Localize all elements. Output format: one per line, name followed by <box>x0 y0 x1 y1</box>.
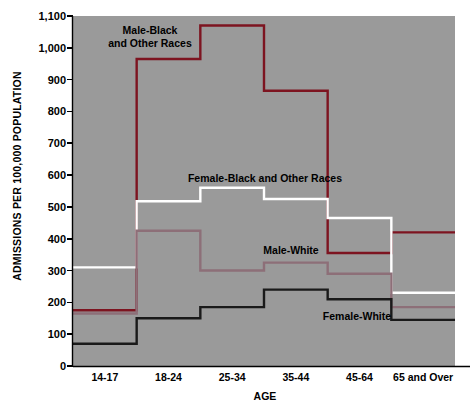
annotation-male-black: Male-Blackand Other Races <box>108 24 191 49</box>
x-tick-label-0: 14-17 <box>91 371 118 383</box>
plot-canvas <box>0 0 476 409</box>
step-chart: ADMISSIONS PER 100,000 POPULATION 010020… <box>0 0 476 409</box>
annotation-male-white: Male-White <box>263 244 318 257</box>
annotation-female-black: Female-Black and Other Races <box>188 172 342 185</box>
annotation-line: and Other Races <box>108 37 191 50</box>
x-tick-label-1: 18-24 <box>155 371 182 383</box>
x-tick-label-2: 25-34 <box>219 371 246 383</box>
annotation-line: Female-White <box>323 310 391 323</box>
x-tick-label-4: 45-64 <box>346 371 373 383</box>
x-axis-title: AGE <box>254 390 277 402</box>
annotation-female-white: Female-White <box>323 310 391 323</box>
annotation-line: Male-White <box>263 244 318 257</box>
annotation-line: Female-Black and Other Races <box>188 172 342 185</box>
annotation-line: Male-Black <box>108 24 191 37</box>
x-tick-label-3: 35-44 <box>282 371 309 383</box>
x-tick-label-5: 65 and Over <box>393 371 453 383</box>
